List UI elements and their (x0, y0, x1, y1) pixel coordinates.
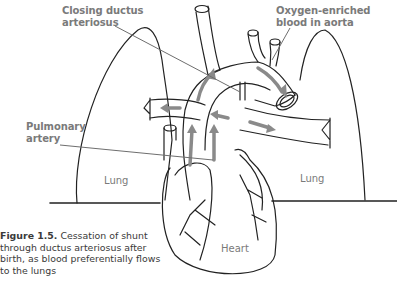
label-line: Pulmonary (26, 121, 86, 133)
heart-outline (162, 149, 276, 273)
label-line: Oxygen-enriched (276, 5, 370, 17)
closing-ductus-label: Closing ductus arteriosus (62, 5, 143, 29)
figure-number: Figure 1.5. (0, 230, 57, 241)
label-line: arteriosus (62, 17, 143, 29)
figure-caption: Figure 1.5. Cessation of shunt through d… (0, 230, 170, 276)
pulmonary-artery-label: Pulmonary artery (26, 121, 86, 145)
right-lung-label: Lung (300, 173, 324, 185)
figure: Closing ductus arteriosus Oxygen-enriche… (0, 0, 397, 287)
label-line: artery (26, 133, 86, 145)
oxygen-blood-label: Oxygen-enriched blood in aorta (276, 5, 370, 29)
label-line: Closing ductus (62, 5, 143, 17)
left-lung-label: Lung (104, 175, 128, 187)
heart-label: Heart (221, 243, 249, 255)
label-line: blood in aorta (276, 17, 370, 29)
